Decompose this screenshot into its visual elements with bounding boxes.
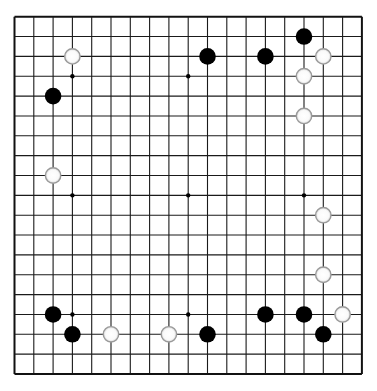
black-stone (296, 306, 313, 323)
star-point (186, 74, 190, 78)
white-stone (316, 49, 331, 64)
black-stone (257, 48, 274, 65)
black-stone (64, 326, 81, 343)
white-stone (45, 168, 60, 183)
star-point (70, 193, 74, 197)
white-stone (316, 208, 331, 223)
white-stone (65, 49, 80, 64)
star-point (302, 193, 306, 197)
star-point (70, 74, 74, 78)
black-stone (257, 306, 274, 323)
black-stone (199, 326, 216, 343)
black-stone (315, 326, 332, 343)
white-stone (161, 327, 176, 342)
black-stone (199, 48, 216, 65)
star-point (186, 193, 190, 197)
white-stone (103, 327, 118, 342)
white-stone (296, 108, 311, 123)
star-point (186, 312, 190, 316)
go-board[interactable] (0, 0, 377, 391)
black-stone (45, 88, 62, 105)
black-stone (45, 306, 62, 323)
star-point (70, 312, 74, 316)
black-stone (296, 28, 313, 45)
white-stone (316, 267, 331, 282)
white-stone (335, 307, 350, 322)
white-stone (296, 69, 311, 84)
